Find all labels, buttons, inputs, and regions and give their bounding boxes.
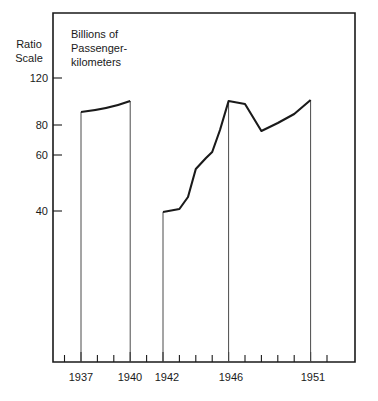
- x-tick-label-1951: 1951: [301, 371, 325, 383]
- chart-title-line-2: Passenger-: [71, 42, 128, 54]
- series-drop-lines: [81, 100, 311, 362]
- x-axis-ticks: [65, 352, 328, 362]
- data-line-postwar: [163, 100, 311, 212]
- y-tick-label-120: 120: [30, 72, 48, 84]
- y-tick-label-40: 40: [36, 205, 48, 217]
- x-tick-label-1937: 1937: [69, 371, 93, 383]
- y-axis-ticks: [53, 78, 62, 211]
- x-tick-label-1946: 1946: [219, 371, 243, 383]
- data-line-prewar: [81, 101, 130, 112]
- y-tick-label-80: 80: [36, 119, 48, 131]
- chart-figure: 120 80 60 40 Ratio Scale Billions of Pas…: [0, 0, 378, 401]
- chart-title-line-3: kilometers: [71, 56, 122, 68]
- ratio-scale-line-chart: 120 80 60 40 Ratio Scale Billions of Pas…: [0, 0, 378, 401]
- ratio-scale-label-line-1: Ratio: [16, 38, 42, 50]
- ratio-scale-label-line-2: Scale: [15, 52, 43, 64]
- chart-title-line-1: Billions of: [71, 28, 119, 40]
- x-tick-label-1940: 1940: [118, 371, 142, 383]
- y-tick-label-60: 60: [36, 149, 48, 161]
- x-tick-label-1942: 1942: [155, 371, 179, 383]
